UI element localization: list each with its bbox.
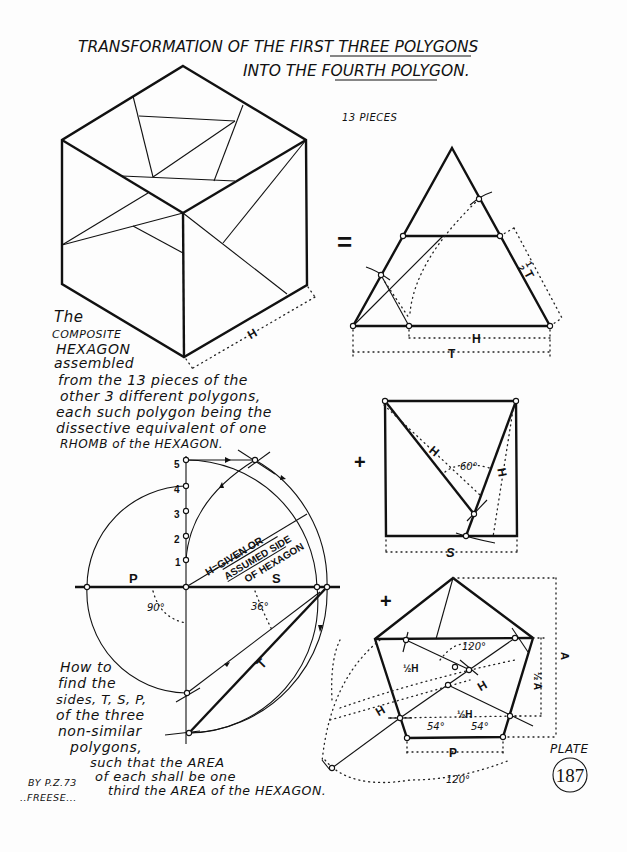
credit: BY P.Z.73 ..FREESE... <box>20 777 77 803</box>
svg-text:assembled: assembled <box>54 355 134 371</box>
pentagon-angle-top: 120° <box>462 641 486 652</box>
equilateral-triangle: 13 PIECES = 1 2 T H T <box>337 112 562 361</box>
plus-sign-square: + <box>354 451 366 473</box>
pentagon-h-inner: H <box>475 678 490 694</box>
hexagon-caption: The COMPOSITE HEXAGON assembled from the… <box>52 308 272 451</box>
square-s-label: S <box>446 545 455 560</box>
square-angle-label: 60° <box>460 461 478 472</box>
plate-drawing: TRANSFORMATION OF THE FIRST THREE POLYGO… <box>0 0 627 852</box>
svg-text:How to: How to <box>60 659 112 675</box>
plus-sign-pentagon: + <box>380 590 392 612</box>
svg-text:dissective equivalent of one: dissective equivalent of one <box>56 420 267 436</box>
svg-text:each such polygon being the: each such polygon being the <box>56 404 272 420</box>
composite-hexagon: H <box>62 66 315 369</box>
plate-number: 187 <box>556 765 585 786</box>
square-right-h-label: H <box>494 467 509 478</box>
title: TRANSFORMATION OF THE FIRST THREE POLYGO… <box>78 38 479 80</box>
hexagon-h-label: H <box>245 326 260 342</box>
pentagon-h-outer: H <box>373 703 388 719</box>
angle-90-label: 90° <box>147 602 165 613</box>
regular-pentagon: + 120° ½H ½H H H 54° <box>322 578 571 785</box>
tick-4: 4 <box>174 484 180 495</box>
half-apothem-label: ½ A <box>532 672 543 690</box>
angle-36-label: 36° <box>251 601 269 612</box>
plate-page: TRANSFORMATION OF THE FIRST THREE POLYGO… <box>0 0 627 852</box>
svg-text:The: The <box>54 308 83 326</box>
p-label: P <box>129 571 138 586</box>
title-line-2: INTO THE FOURTH POLYGON. <box>243 62 470 80</box>
pentagon-angle-left: 54° <box>427 721 445 732</box>
tick-2: 2 <box>174 534 180 545</box>
pentagon-angle-right: 54° <box>471 721 489 732</box>
square: + H H 60° S <box>354 398 519 560</box>
credit-line-2: ..FREESE... <box>20 792 77 803</box>
svg-text:find the: find the <box>58 675 116 691</box>
svg-text:from the 13 pieces of the: from the 13 pieces of the <box>58 372 248 388</box>
title-emphasis-first-three: FIRST THREE <box>290 38 390 56</box>
plate-label: PLATE <box>550 742 589 756</box>
pentagon-p-label: P <box>449 746 457 760</box>
svg-text:third the AREA of the HEXAGON.: third the AREA of the HEXAGON. <box>108 783 326 798</box>
triangle-h-label: H <box>472 332 481 346</box>
tick-3: 3 <box>174 509 180 520</box>
svg-text:polygons,: polygons, <box>69 739 142 755</box>
tick-5: 5 <box>174 459 180 470</box>
svg-text:COMPOSITE: COMPOSITE <box>52 328 122 341</box>
pieces-label: 13 PIECES <box>342 112 398 123</box>
pentagon-angle-bottom: 120° <box>446 774 470 785</box>
s-label: S <box>272 571 281 586</box>
triangle-t-label: T <box>448 347 456 361</box>
svg-text:sides, T, S, P,: sides, T, S, P, <box>56 692 147 707</box>
svg-text:of the three: of the three <box>56 707 145 723</box>
construction-caption: How to find the sides, T, S, P, of the t… <box>56 659 326 798</box>
pentagon-half-h-1: ½H <box>403 663 419 674</box>
apothem-label: A <box>559 652 571 660</box>
svg-text:such that the AREA: such that the AREA <box>90 755 225 770</box>
title-line-1: TRANSFORMATION OF THE FIRST THREE POLYGO… <box>78 38 479 56</box>
t-label: T <box>254 656 270 672</box>
plate-badge: PLATE 187 <box>550 742 589 792</box>
title-emphasis-fourth: FOURTH <box>322 62 387 80</box>
svg-text:non-similar: non-similar <box>58 723 143 739</box>
credit-line-1: BY P.Z.73 <box>28 777 77 788</box>
pentagon-half-h-2: ½H <box>457 709 473 720</box>
svg-text:other 3 different polygons,: other 3 different polygons, <box>60 388 261 404</box>
svg-text:RHOMB of the HEXAGON.: RHOMB of the HEXAGON. <box>60 437 223 451</box>
svg-text:of each shall be one: of each shall be one <box>95 769 236 784</box>
half-t-label: 1 2 T <box>516 259 540 282</box>
tick-1: 1 <box>175 557 181 568</box>
equals-sign: = <box>337 227 352 257</box>
